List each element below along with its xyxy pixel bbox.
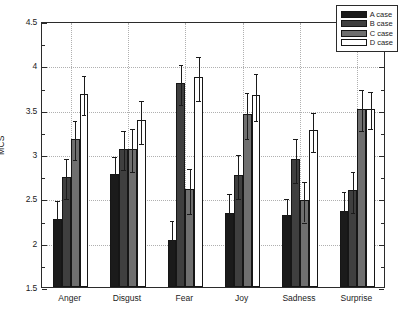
error-bar-cap-upper <box>130 129 135 130</box>
legend-item-a-case[interactable]: A case <box>341 10 393 19</box>
error-bar-cap-lower <box>170 263 175 264</box>
error-bar-stem <box>304 182 305 223</box>
error-bar-cap-lower <box>64 199 69 200</box>
y-axis-tick-mark <box>379 200 384 201</box>
y-axis-minor-tick <box>42 178 45 179</box>
error-bar-stem <box>190 169 191 213</box>
legend-swatch-icon <box>341 30 367 37</box>
error-bar-stem <box>287 199 288 236</box>
y-axis-tick-mark <box>379 67 384 68</box>
legend-label: A case <box>370 10 393 19</box>
error-bar-cap-upper <box>351 172 356 173</box>
error-bar-stem <box>229 194 230 237</box>
error-bar-cap-upper <box>245 93 250 94</box>
bar-d-case-fear <box>194 77 203 287</box>
gridline-horizontal <box>42 156 384 157</box>
legend-item-b-case[interactable]: B case <box>341 19 393 28</box>
legend-label: D case <box>370 38 393 47</box>
y-axis-minor-tick <box>42 90 45 91</box>
error-bar-cap-upper <box>254 74 259 75</box>
error-bar-cap-upper <box>179 65 184 66</box>
y-axis-tick-mark <box>379 289 384 290</box>
y-axis-tick-mark <box>42 289 47 290</box>
legend-swatch-icon <box>341 20 367 27</box>
y-axis-minor-tick <box>42 134 45 135</box>
y-axis-tick-label: 2.5 <box>26 194 37 204</box>
error-bar-stem <box>132 129 133 172</box>
bar-d-case-sadness <box>309 130 318 287</box>
error-bar-cap-lower <box>139 144 144 145</box>
bar-d-case-anger <box>80 94 89 287</box>
error-bar-cap-upper <box>121 131 126 132</box>
error-bar-stem <box>238 155 239 199</box>
y-axis-minor-tick <box>381 134 384 135</box>
error-bar-cap-upper <box>342 192 347 193</box>
y-axis-tick-label: 4 <box>32 61 37 71</box>
error-bar-cap-upper <box>196 57 201 58</box>
error-bar-cap-upper <box>293 139 298 140</box>
x-axis-tick-label: Disgust <box>113 293 141 303</box>
y-axis-tick-label: 2 <box>32 239 37 249</box>
legend-item-d-case[interactable]: D case <box>341 38 393 47</box>
error-bar-stem <box>344 192 345 233</box>
error-bar-stem <box>247 93 248 139</box>
error-bar-cap-upper <box>139 101 144 102</box>
error-bar-cap-lower <box>82 115 87 116</box>
error-bar-cap-upper <box>284 199 289 200</box>
gridline-horizontal <box>42 245 384 246</box>
bar-d-case-disgust <box>137 120 146 287</box>
y-axis-minor-tick <box>42 267 45 268</box>
gridline-horizontal <box>42 112 384 113</box>
error-bar-cap-lower <box>342 233 347 234</box>
y-axis-tick-mark <box>379 112 384 113</box>
legend-item-c-case[interactable]: C case <box>341 29 393 38</box>
error-bar-stem <box>362 90 363 131</box>
bar-d-case-joy <box>252 95 261 287</box>
error-bar-stem <box>181 65 182 106</box>
error-bar-stem <box>66 159 67 200</box>
error-bar-stem <box>57 201 58 240</box>
plot-area <box>41 22 385 288</box>
y-axis-minor-tick <box>42 45 45 46</box>
y-axis-minor-tick <box>381 178 384 179</box>
legend-swatch-icon <box>341 39 367 46</box>
error-bar-cap-lower <box>351 213 356 214</box>
error-bar-stem <box>75 121 76 160</box>
legend-label: B case <box>370 19 393 28</box>
y-axis-minor-tick <box>381 267 384 268</box>
error-bar-cap-upper <box>187 169 192 170</box>
error-bar-cap-lower <box>121 170 126 171</box>
chart-legend: A caseB caseC caseD case <box>336 5 398 52</box>
error-bar-cap-lower <box>187 214 192 215</box>
gridline-horizontal <box>42 67 384 68</box>
error-bar-stem <box>124 131 125 170</box>
error-bar-stem <box>84 76 85 115</box>
error-bar-cap-lower <box>55 240 60 241</box>
error-bar-stem <box>371 92 372 129</box>
error-bar-cap-lower <box>196 101 201 102</box>
error-bar-cap-lower <box>254 121 259 122</box>
y-axis-tick-mark <box>379 156 384 157</box>
error-bar-cap-lower <box>227 237 232 238</box>
error-bar-stem <box>172 221 173 264</box>
y-axis-minor-tick <box>381 90 384 91</box>
bar-c-case-surprise <box>357 109 366 287</box>
error-bar-cap-upper <box>170 221 175 222</box>
legend-swatch-icon <box>341 11 367 18</box>
y-axis-tick-mark <box>42 23 47 24</box>
legend-label: C case <box>370 29 393 38</box>
y-axis-tick-label: 4.5 <box>26 17 37 27</box>
error-bar-stem <box>353 172 354 213</box>
error-bar-stem <box>115 157 116 194</box>
x-axis-tick-label: Surprise <box>341 293 373 303</box>
error-bar-cap-lower <box>179 105 184 106</box>
error-bar-cap-lower <box>130 172 135 173</box>
y-axis-tick-mark <box>42 112 47 113</box>
y-axis-tick-mark <box>42 245 47 246</box>
y-axis-tick-label: 3.5 <box>26 106 37 116</box>
y-axis-tick-label: 1.5 <box>26 283 37 293</box>
error-bar-cap-lower <box>284 236 289 237</box>
error-bar-cap-lower <box>311 152 316 153</box>
error-bar-cap-lower <box>236 199 241 200</box>
chart-figure: MCS 1.522.533.544.5 AngerDisgustFearJoyS… <box>0 0 404 327</box>
